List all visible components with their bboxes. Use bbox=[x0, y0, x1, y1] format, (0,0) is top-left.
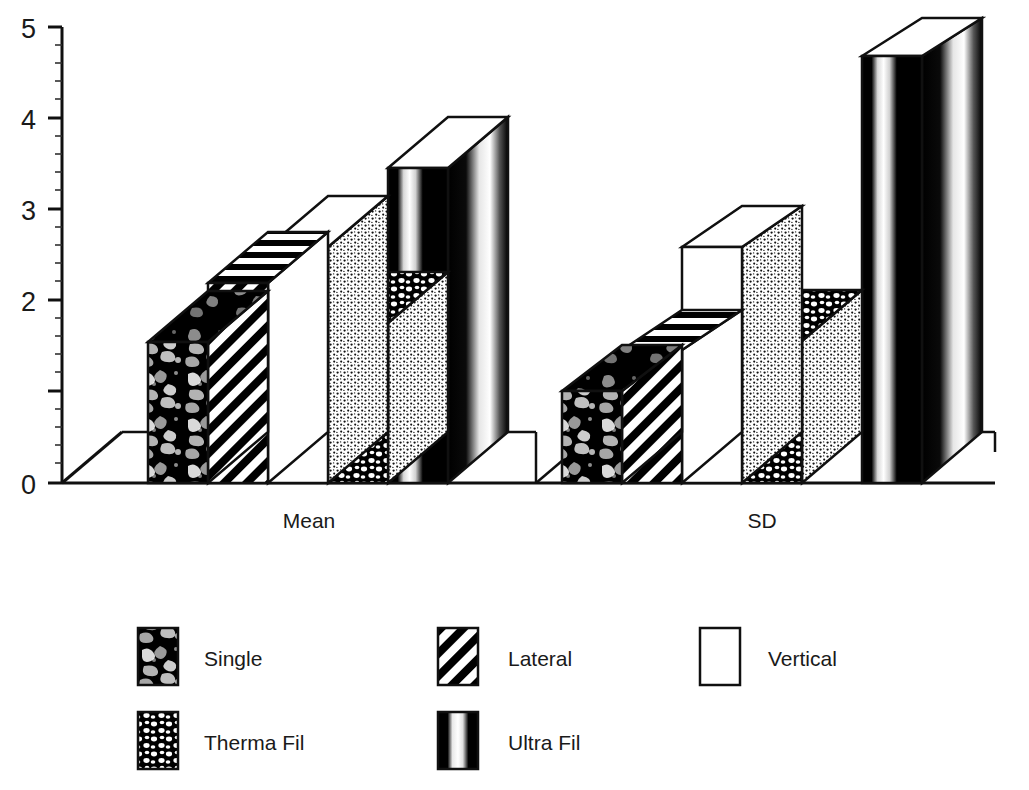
legend-swatch-lateral bbox=[438, 628, 478, 685]
y-axis-tick-label-3: 3 bbox=[21, 196, 36, 226]
legend-item-ultra-fil[interactable]: Ultra Fil bbox=[438, 712, 580, 769]
bar-group-sd bbox=[562, 18, 982, 483]
legend-swatch-ultra-fil bbox=[438, 712, 478, 769]
legend-label-lateral: Lateral bbox=[508, 647, 572, 670]
depth-axis-line bbox=[62, 432, 122, 483]
legend-item-lateral[interactable]: Lateral bbox=[438, 628, 572, 685]
legend-label-therma-fil: Therma Fil bbox=[204, 731, 304, 754]
legend-label-single: Single bbox=[204, 647, 262, 670]
legend-swatch-therma-fil bbox=[138, 712, 178, 769]
bar-sd-ultra-fil bbox=[862, 18, 982, 483]
y-axis-tick-label-5: 5 bbox=[21, 14, 36, 44]
chart-legend: Single Lateral Vertical Therma Fil Ultra… bbox=[138, 628, 837, 769]
legend-swatch-vertical bbox=[700, 628, 740, 685]
legend-swatch-single bbox=[138, 628, 178, 685]
legend-label-vertical: Vertical bbox=[768, 647, 837, 670]
legend-item-therma-fil[interactable]: Therma Fil bbox=[138, 712, 304, 769]
legend-item-vertical[interactable]: Vertical bbox=[700, 628, 837, 685]
bar-side-face bbox=[448, 117, 508, 483]
bar-group-mean bbox=[148, 117, 508, 483]
bar-side-face bbox=[922, 18, 982, 483]
chart-canvas: 5 4 3 2 0 bbox=[0, 0, 1029, 790]
legend-item-single[interactable]: Single bbox=[138, 628, 262, 685]
bar-front-face bbox=[148, 342, 208, 483]
legend-label-ultra-fil: Ultra Fil bbox=[508, 731, 580, 754]
y-axis-tick-label-0: 0 bbox=[21, 470, 36, 500]
bar-chart-figure: 5 4 3 2 0 bbox=[0, 0, 1029, 790]
y-axis-tick-label-4: 4 bbox=[21, 105, 36, 135]
bar-front-face bbox=[862, 56, 922, 483]
x-axis-category-label-mean: Mean bbox=[283, 509, 336, 532]
x-axis-category-label-sd: SD bbox=[747, 509, 776, 532]
bar-front-face bbox=[562, 391, 622, 483]
y-axis-tick-label-2: 2 bbox=[21, 287, 36, 317]
